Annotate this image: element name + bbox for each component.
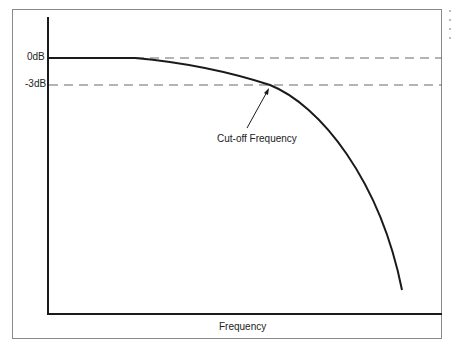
zero-db-tick-label: 0dB xyxy=(27,51,45,62)
cutoff-frequency-annotation: Cut-off Frequency xyxy=(217,133,297,144)
x-axis-label: Frequency xyxy=(219,321,266,332)
chart-canvas xyxy=(0,0,465,346)
minus-three-db-tick-label: -3dB xyxy=(25,78,46,89)
cutoff-arrow xyxy=(247,90,268,128)
response-curve xyxy=(48,58,402,290)
margin-marks xyxy=(449,10,453,46)
cutoff-arrowhead xyxy=(264,88,269,95)
